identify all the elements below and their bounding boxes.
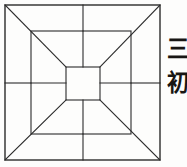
- annotation-column: 三 初: [163, 33, 187, 109]
- diagonal-top-left: [5, 5, 66, 67]
- nested-square-diagram: [0, 0, 187, 167]
- diagonal-bottom-right: [100, 100, 160, 160]
- diagonal-top-right: [100, 5, 160, 67]
- diagonal-bottom-left: [5, 100, 66, 160]
- figure-root: 三 初: [0, 0, 187, 167]
- annotation-character-two: 初: [167, 67, 187, 99]
- diagram-strokes: [5, 5, 160, 160]
- annotation-character-one: 三: [167, 33, 187, 65]
- inner-center-square: [66, 67, 100, 100]
